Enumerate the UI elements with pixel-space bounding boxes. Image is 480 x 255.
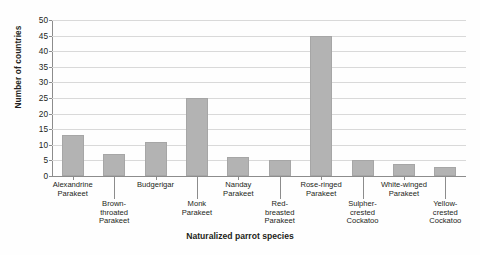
y-tick-mark-25 [49,98,52,99]
y-tick-mark-50 [49,20,52,21]
x-category-label: Yellow- crested Cockatoo [413,200,477,226]
x-category-label: White-winged Parakeet [372,181,436,198]
y-tick-mark-30 [49,82,52,83]
gridline-50 [52,20,466,21]
y-tick-label-30: 30 [39,77,48,87]
y-tick-label-15: 15 [39,124,48,134]
bar [227,157,249,176]
x-category-label: Sulpher- crested Cockatoo [331,200,395,226]
y-tick-mark-15 [49,129,52,130]
x-category-label: Red- breasted Parakeet [248,200,312,226]
plot-area: 05101520253035404550 [52,20,466,176]
y-tick-mark-40 [49,51,52,52]
bar-chart: Number of countries 05101520253035404550… [0,0,480,255]
x-category-label: Alexandrine Parakeet [41,181,105,198]
y-tick-mark-35 [49,67,52,68]
x-tick-leader [114,176,115,199]
x-tick-leader [445,176,446,199]
gridline-25 [52,98,466,99]
y-tick-label-35: 35 [39,62,48,72]
y-tick-label-50: 50 [39,15,48,25]
x-category-label: Budgerigar [124,181,188,190]
x-tick-leader [363,176,364,199]
bar [393,164,415,176]
x-tick-leader [197,176,198,199]
bar [352,160,374,176]
y-tick-mark-10 [49,145,52,146]
x-category-label: Monk Parakeet [165,200,229,217]
y-tick-label-20: 20 [39,109,48,119]
gridline-20 [52,114,466,115]
gridline-10 [52,145,466,146]
y-tick-mark-0 [49,176,52,177]
y-tick-mark-20 [49,114,52,115]
x-axis-title: Naturalized parrot species [0,231,480,241]
y-tick-mark-45 [49,36,52,37]
gridline-35 [52,67,466,68]
bar [186,98,208,176]
y-tick-label-10: 10 [39,140,48,150]
bar [434,167,456,176]
bar [62,135,84,176]
bar [269,160,291,176]
bar [145,142,167,176]
y-axis-title: Number of countries [13,0,23,137]
y-tick-label-5: 5 [43,155,48,165]
y-tick-label-0: 0 [43,171,48,181]
x-category-label: Rose-ringed Parakeet [289,181,353,198]
x-tick-leader [280,176,281,199]
y-tick-label-25: 25 [39,93,48,103]
gridline-40 [52,51,466,52]
x-category-label: Brown- throated Parakeet [82,200,146,226]
gridline-30 [52,82,466,83]
gridline-15 [52,129,466,130]
y-tick-label-45: 45 [39,31,48,41]
y-tick-label-40: 40 [39,46,48,56]
y-tick-mark-5 [49,160,52,161]
bar [103,154,125,176]
gridline-45 [52,36,466,37]
bar [310,36,332,176]
x-category-label: Nanday Parakeet [206,181,270,198]
